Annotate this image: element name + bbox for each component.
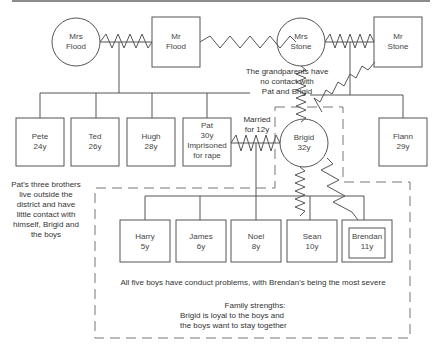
brendan-label: Brendan 11y: [342, 232, 392, 252]
mrs-flood-label: Mrs Flood: [56, 32, 96, 52]
family-strengths-note: Family strengths: Brigid is loyal to the…: [180, 301, 330, 331]
pete-label: Pete 24y: [16, 132, 64, 152]
sean-label: Sean 10y: [287, 232, 337, 252]
brigid-label: Brigid 32y: [284, 133, 324, 153]
flann-label: Flann 29y: [379, 132, 427, 152]
brothers-note: Pat's three brothers live outside the di…: [2, 180, 90, 240]
hugh-label: Hugh 28y: [127, 132, 175, 152]
brigid-sean-zigzag: [295, 167, 305, 216]
mrs-stone-label: Mrs Stone: [281, 32, 321, 52]
noel-label: Noel 8y: [231, 232, 281, 252]
grandparents-note: The grandparents have no contact with Pa…: [232, 67, 342, 97]
pat-label: Pat 30y Imprisoned for rape: [183, 121, 231, 161]
brigid-brendan-zigzag: [321, 158, 358, 220]
marriage-note: Married for 12y: [233, 115, 281, 135]
flood-marriage-zigzag: [100, 34, 152, 48]
harry-label: Harry 5y: [120, 232, 170, 252]
ted-label: Ted 26y: [71, 132, 119, 152]
mr-stone-label: Mr Stone: [378, 32, 418, 52]
mr-flood-label: Mr Flood: [156, 32, 196, 52]
conduct-note: All five boys have conduct problems, wit…: [98, 278, 408, 288]
james-label: James 6y: [176, 232, 226, 252]
